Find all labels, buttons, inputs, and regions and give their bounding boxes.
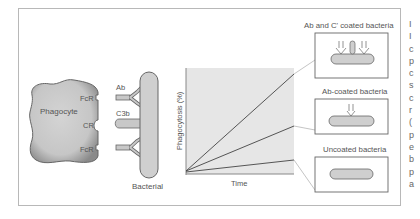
bacterium-label: Bacterial [132, 182, 163, 191]
side-text-line: c [409, 67, 420, 79]
side-text-line: ( [409, 116, 420, 128]
connector-lines [294, 60, 315, 190]
bacterium-cell [140, 72, 158, 178]
x-axis-label: Time [231, 179, 247, 188]
receptor-cr-label: CR [83, 121, 94, 130]
panel-ab-coated-title: Ab-coated bacteria [322, 87, 388, 96]
panel-ab-c-coated-title: Ab and C' coated bacteria [304, 21, 394, 30]
side-text-line: c [409, 92, 420, 104]
phagocytosis-graph [186, 68, 294, 175]
side-text-line: r [409, 104, 420, 116]
receptor-fcr-bottom-label: FcR [80, 145, 94, 154]
side-text-line: p [409, 55, 420, 67]
side-text-line: p [409, 166, 420, 178]
ab-label: Ab [116, 83, 125, 92]
side-text-line: I [409, 18, 420, 30]
panel-uncoated-bacterium [330, 169, 373, 179]
c3b-label: C3b [116, 109, 130, 118]
side-text-line: c [409, 43, 420, 55]
phagocyte-label: Phagocyte [40, 107, 78, 116]
phagocytosis-diagram: Phagocyte FcR CR FcR Ab C3b Bacterial Ph… [0, 0, 420, 219]
side-text-line: p [409, 129, 420, 141]
side-text-line: a [409, 178, 420, 190]
side-text-line: I [409, 30, 420, 42]
truncated-side-text: I I c p c s c r ( p e b p a [409, 18, 420, 190]
receptor-fcr-top-label: FcR [80, 94, 94, 103]
y-axis-label: Phagocytosis (%) [175, 91, 184, 150]
side-text-line: b [409, 153, 420, 165]
panel-uncoated-title: Uncoated bacteria [323, 145, 387, 154]
side-text-line: s [409, 79, 420, 91]
side-text-line: e [409, 141, 420, 153]
